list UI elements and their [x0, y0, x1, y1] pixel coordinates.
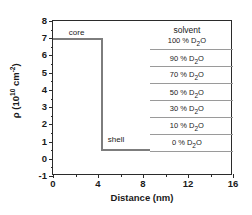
y-axis-minor-tick — [51, 30, 54, 31]
solvent-label-suffix: O — [198, 121, 204, 130]
y-axis-tick — [49, 107, 53, 108]
y-axis-minor-tick — [51, 99, 54, 100]
y-axis-title-close: ) — [10, 63, 21, 66]
x-axis-minor-tick — [211, 174, 212, 177]
y-axis-title: ρ (1010 cm-2) — [11, 31, 21, 151]
y-axis-exponent-2: -2 — [9, 67, 16, 73]
y-axis-minor-tick — [51, 167, 54, 168]
y-axis-tick-label: 3 — [42, 102, 47, 112]
y-axis-tick-label: 0 — [42, 154, 47, 164]
solvent-level-line — [150, 100, 233, 101]
solvent-level-label: 90 % D2O — [170, 55, 204, 63]
y-axis-tick-label: 6 — [42, 51, 47, 61]
y-axis-minor-tick — [51, 81, 54, 82]
solvent-label-suffix: O — [198, 88, 204, 97]
y-axis-tick-label: 8 — [42, 16, 47, 26]
x-axis-tick-label: 4 — [95, 179, 100, 189]
x-axis-tick-label: 16 — [228, 179, 239, 189]
solvent-label-text: 50 % D — [170, 88, 195, 97]
solvent-level-label: 70 % D2O — [170, 71, 204, 79]
y-axis-tick-label: 2 — [42, 120, 47, 130]
solvent-label-suffix: O — [200, 36, 206, 45]
solvent-level-line — [150, 83, 233, 84]
y-axis-minor-tick — [51, 64, 54, 65]
solvent-level-line — [150, 134, 233, 135]
y-axis-minor-tick — [51, 150, 54, 151]
solvent-level-label: 0 % D2O — [172, 139, 202, 147]
x-axis-tick-label: 0 — [50, 179, 55, 189]
solvent-label-text: 90 % D — [170, 54, 195, 63]
y-axis-tick — [49, 142, 53, 143]
y-axis-tick — [49, 159, 53, 160]
y-axis-tick-label: -1 — [39, 171, 47, 181]
solvent-label-text: 70 % D — [170, 70, 195, 79]
sld-profile-figure: 876543210-10481216100 % D2O90 % D2O70 % … — [0, 0, 252, 215]
annotation-shell: shell — [108, 136, 124, 144]
y-axis-tick — [49, 55, 53, 56]
solvent-level-label: 50 % D2O — [170, 89, 204, 97]
solvent-label-text: 30 % D — [170, 104, 195, 113]
y-axis-tick — [49, 21, 53, 22]
y-axis-title-text: ρ (10 — [10, 96, 21, 118]
x-axis-tick-label: 8 — [140, 179, 145, 189]
plot-area: 876543210-10481216100 % D2O90 % D2O70 % … — [52, 20, 232, 175]
annotation-core: core — [69, 29, 85, 37]
solvent-level-line — [150, 66, 233, 67]
profile-segment — [101, 38, 102, 149]
solvent-level-label: 100 % D2O — [168, 37, 206, 45]
y-axis-minor-tick — [51, 133, 54, 134]
y-axis-tick-label: 5 — [42, 68, 47, 78]
y-axis-minor-tick — [51, 116, 54, 117]
profile-segment — [53, 38, 101, 39]
x-axis-title: Distance (nm) — [52, 193, 232, 203]
solvent-level-line — [150, 49, 233, 50]
y-axis-tick-label: 1 — [42, 137, 47, 147]
solvent-label-text: 100 % D — [168, 36, 197, 45]
solvent-label-text: 10 % D — [170, 121, 195, 130]
y-axis-tick — [49, 124, 53, 125]
solvent-level-line — [150, 151, 233, 152]
y-axis-title-mid: cm — [10, 72, 21, 88]
solvent-label-suffix: O — [196, 138, 202, 147]
y-axis-exponent: 10 — [9, 89, 16, 96]
solvent-level-label: 10 % D2O — [170, 122, 204, 130]
solvent-label-suffix: O — [198, 54, 204, 63]
x-axis-minor-tick — [166, 174, 167, 177]
solvent-level-label: 30 % D2O — [170, 105, 204, 113]
y-axis-tick-label: 7 — [42, 33, 47, 43]
solvent-level-line — [150, 117, 233, 118]
x-axis-tick-label: 12 — [183, 179, 194, 189]
y-axis-minor-tick — [51, 47, 54, 48]
solvent-label-suffix: O — [198, 104, 204, 113]
profile-segment — [101, 149, 149, 150]
solvent-label-suffix: O — [198, 70, 204, 79]
annotation-solvent: solvent — [173, 26, 200, 35]
y-axis-tick-label: 4 — [42, 85, 47, 95]
y-axis-tick — [49, 90, 53, 91]
solvent-label-text: 0 % D — [172, 138, 192, 147]
x-axis-minor-tick — [76, 174, 77, 177]
x-axis-minor-tick — [121, 174, 122, 177]
y-axis-tick — [49, 73, 53, 74]
